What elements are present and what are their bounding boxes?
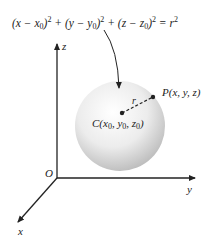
c-part: , z (126, 117, 136, 129)
pointer-arrow (104, 30, 119, 88)
radius-label: r (132, 96, 136, 106)
sphere-diagram: (x − x0)2 + (y − y0)2 + (z − z0)2 = r2 z… (0, 0, 215, 241)
center-c-label: C(x0, y0, z0) (92, 118, 144, 131)
x-axis (18, 178, 57, 222)
c-part: C(x (92, 117, 108, 129)
sphere-equation: (x − x0)2 + (y − y0)2 + (z − z0)2 = r2 (12, 16, 178, 31)
eq-part: = r (156, 17, 174, 29)
y-axis-label: y (187, 184, 192, 195)
eq-sup: 2 (174, 15, 178, 24)
eq-part: + (z − z (104, 17, 144, 29)
c-part: , y (112, 117, 122, 129)
eq-part: + (y − y (51, 17, 92, 29)
center-point (120, 111, 124, 115)
origin-label: O (45, 168, 53, 179)
x-axis-label: x (18, 226, 23, 237)
c-part: ) (140, 117, 144, 129)
surface-point (151, 95, 155, 99)
point-p-label: P(x, y, z) (162, 87, 200, 98)
z-axis-label: z (62, 41, 66, 52)
eq-part: (x − x (12, 17, 40, 29)
